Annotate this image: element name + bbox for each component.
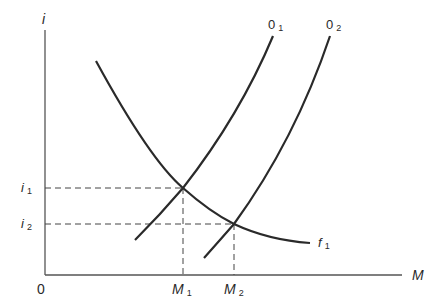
f1-label-sub: 1	[325, 241, 330, 251]
f1-curve	[96, 61, 310, 243]
origin-label: 0	[37, 282, 45, 296]
diagram-canvas	[0, 0, 444, 308]
o1-label-sub: 1	[278, 23, 283, 33]
y-axis-label: i	[42, 12, 45, 26]
o1-curve	[135, 36, 273, 240]
M2-label-main: M	[224, 281, 236, 297]
M1-label-sub: 1	[187, 288, 192, 298]
i2-label-sub: 2	[27, 222, 32, 232]
i2-tick-label: i2	[21, 217, 32, 230]
i1-tick-label: i1	[21, 181, 32, 194]
M2-tick-label: M2	[224, 282, 244, 296]
M1-tick-label: M1	[172, 282, 192, 296]
i1-label-main: i	[21, 180, 24, 195]
o2-label-main: 0	[326, 17, 333, 32]
o2-curve	[204, 36, 330, 258]
M2-label-sub: 2	[239, 288, 244, 298]
o1-curve-label: 01	[268, 18, 283, 31]
i1-label-sub: 1	[27, 186, 32, 196]
M1-label-main: M	[172, 281, 184, 297]
o1-label-main: 0	[268, 17, 275, 32]
o2-label-sub: 2	[336, 23, 341, 33]
f1-curve-label: f1	[318, 236, 330, 249]
o2-curve-label: 02	[326, 18, 341, 31]
x-axis-label: M	[412, 268, 424, 282]
f1-label-main: f	[318, 235, 322, 250]
i2-label-main: i	[21, 216, 24, 231]
